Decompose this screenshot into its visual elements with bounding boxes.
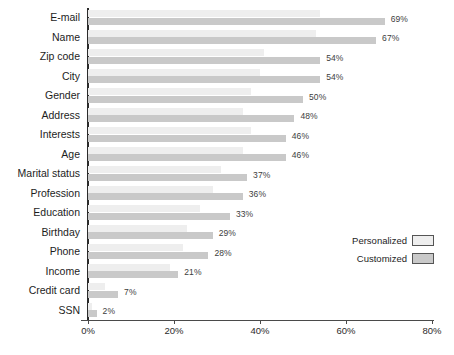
- category-label: Zip code: [0, 47, 84, 67]
- bar-customized: [88, 271, 178, 278]
- bar-personalized: [88, 127, 251, 134]
- bar-value-label: 50%: [309, 92, 326, 102]
- bar-row: 37%: [88, 164, 432, 184]
- bar-value-label: 48%: [300, 111, 317, 121]
- bar-customized: [88, 76, 320, 83]
- bar-value-label: 67%: [382, 33, 399, 43]
- bar-customized: [88, 252, 208, 259]
- category-label: Birthday: [0, 223, 84, 243]
- tick-mark: [346, 320, 347, 324]
- bar-value-label: 69%: [391, 14, 408, 24]
- bar-value-label: 37%: [253, 170, 270, 180]
- bar-personalized: [88, 283, 105, 290]
- category-label: E-mail: [0, 8, 84, 28]
- bar-row: 69%: [88, 8, 432, 28]
- bar-customized: [88, 135, 286, 142]
- category-label: Gender: [0, 86, 84, 106]
- bar-customized: [88, 18, 385, 25]
- bar-personalized: [88, 30, 316, 37]
- bar-personalized: [88, 147, 243, 154]
- chart-legend: PersonalizedCustomized: [322, 233, 434, 269]
- tick-label: 80%: [422, 325, 441, 336]
- y-axis-category-labels: E-mailNameZip codeCityGenderAddressInter…: [0, 8, 84, 320]
- category-label: Marital status: [0, 164, 84, 184]
- bar-customized: [88, 291, 118, 298]
- bar-personalized: [88, 225, 187, 232]
- tick-mark: [260, 320, 261, 324]
- bar-row: 36%: [88, 184, 432, 204]
- bar-value-label: 33%: [236, 209, 253, 219]
- bar-customized: [88, 37, 376, 44]
- bar-value-label: 7%: [124, 287, 137, 297]
- legend-swatch: [412, 235, 434, 246]
- plot-area: 69%67%54%54%50%48%46%46%37%36%33%29%28%2…: [88, 8, 432, 320]
- category-label: Profession: [0, 184, 84, 204]
- bar-personalized: [88, 166, 221, 173]
- bar-chart: E-mailNameZip codeCityGenderAddressInter…: [0, 0, 454, 355]
- bar-value-label: 46%: [292, 150, 309, 160]
- bar-customized: [88, 57, 320, 64]
- bar-personalized: [88, 69, 260, 76]
- tick-label: 0%: [81, 325, 95, 336]
- category-label: Income: [0, 262, 84, 282]
- bar-personalized: [88, 244, 183, 251]
- bar-row: 46%: [88, 145, 432, 165]
- bar-personalized: [88, 49, 264, 56]
- legend-swatch: [412, 253, 434, 264]
- bar-customized: [88, 213, 230, 220]
- category-label: Age: [0, 145, 84, 165]
- bar-value-label: 36%: [249, 189, 266, 199]
- legend-label: Personalized: [352, 235, 407, 246]
- bar-row: 50%: [88, 86, 432, 106]
- tick-mark: [174, 320, 175, 324]
- category-label: Interests: [0, 125, 84, 145]
- bar-rows: 69%67%54%54%50%48%46%46%37%36%33%29%28%2…: [88, 8, 432, 320]
- bar-value-label: 46%: [292, 131, 309, 141]
- tick-label: 60%: [336, 325, 355, 336]
- bar-row: 48%: [88, 106, 432, 126]
- legend-item: Customized: [322, 251, 434, 266]
- category-label: Name: [0, 28, 84, 48]
- bar-value-label: 54%: [326, 72, 343, 82]
- bar-customized: [88, 96, 303, 103]
- bar-personalized: [88, 205, 200, 212]
- category-label: City: [0, 67, 84, 87]
- legend-label: Customized: [357, 253, 407, 264]
- tick-mark: [88, 320, 89, 324]
- tick-label: 20%: [164, 325, 183, 336]
- bar-personalized: [88, 303, 92, 310]
- bar-customized: [88, 310, 97, 317]
- bar-row: 54%: [88, 47, 432, 67]
- category-label: Phone: [0, 242, 84, 262]
- bar-personalized: [88, 88, 251, 95]
- bar-row: 2%: [88, 301, 432, 321]
- bar-row: 7%: [88, 281, 432, 301]
- bar-customized: [88, 154, 286, 161]
- category-label: Credit card: [0, 281, 84, 301]
- bar-value-label: 21%: [184, 267, 201, 277]
- bar-row: 46%: [88, 125, 432, 145]
- bar-value-label: 29%: [219, 228, 236, 238]
- bar-customized: [88, 193, 243, 200]
- bar-value-label: 2%: [103, 306, 116, 316]
- x-axis-ticks: 0%20%40%60%80%: [0, 320, 454, 342]
- tick-mark: [432, 320, 433, 324]
- bar-value-label: 28%: [214, 248, 231, 258]
- bar-personalized: [88, 108, 243, 115]
- bar-customized: [88, 174, 247, 181]
- category-label: Education: [0, 203, 84, 223]
- bar-customized: [88, 232, 213, 239]
- bar-personalized: [88, 10, 320, 17]
- bar-row: 67%: [88, 28, 432, 48]
- bar-value-label: 54%: [326, 53, 343, 63]
- bar-row: 54%: [88, 67, 432, 87]
- bar-customized: [88, 115, 294, 122]
- category-label: Address: [0, 106, 84, 126]
- bar-personalized: [88, 186, 213, 193]
- legend-item: Personalized: [322, 233, 434, 248]
- tick-label: 40%: [250, 325, 269, 336]
- bar-row: 33%: [88, 203, 432, 223]
- category-label: SSN: [0, 301, 84, 321]
- bar-personalized: [88, 264, 170, 271]
